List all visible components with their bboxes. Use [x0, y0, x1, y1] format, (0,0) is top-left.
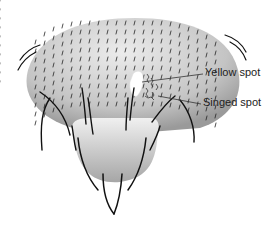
yellow-spot-label: Yellow spot [205, 66, 260, 78]
singed-spot-label: Singed spot [203, 96, 261, 108]
scutellum [72, 118, 159, 182]
thorax-diagram [0, 0, 273, 230]
